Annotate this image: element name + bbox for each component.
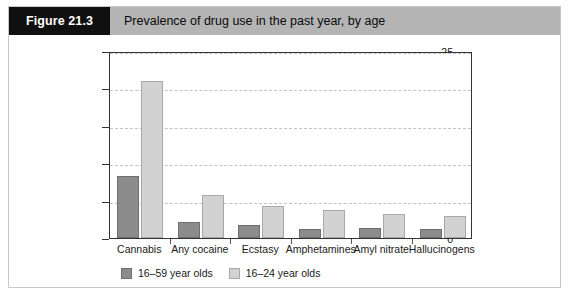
figure-container: Figure 21.3 Prevalence of drug use in th… (8, 6, 561, 288)
bar (141, 81, 163, 238)
plot-area (109, 52, 472, 239)
bar (202, 195, 224, 238)
chart-area: 0510152025 CannabisAny cocaineEcstasyAmp… (9, 35, 560, 287)
bar (359, 228, 381, 238)
bar (238, 225, 260, 238)
y-axis-tick-mark (102, 52, 109, 53)
legend-label: 16–59 year olds (138, 267, 213, 279)
legend-item: 16–24 year olds (229, 267, 321, 279)
y-axis-tick-mark (102, 239, 109, 240)
legend-item: 16–59 year olds (121, 267, 213, 279)
bar (178, 222, 200, 238)
x-axis-category-label: Cannabis (117, 243, 161, 255)
bar (117, 176, 139, 238)
bar (383, 214, 405, 238)
x-axis-category-label: Amphetamines (286, 243, 356, 255)
chart-legend: 16–59 year olds16–24 year olds (121, 267, 320, 279)
y-axis-tick-mark (102, 202, 109, 203)
x-axis-tick-mark (230, 239, 231, 244)
x-axis-category-label: Hallucinogens (409, 243, 475, 255)
legend-swatch (229, 268, 240, 279)
figure-header: Figure 21.3 Prevalence of drug use in th… (9, 7, 560, 35)
legend-label: 16–24 year olds (246, 267, 321, 279)
figure-title: Prevalence of drug use in the past year,… (110, 7, 385, 35)
bar (299, 229, 321, 238)
bar (444, 216, 466, 238)
x-axis-category-label: Amyl nitrate (354, 243, 409, 255)
bars-layer (110, 53, 471, 238)
x-axis-category-label: Any cocaine (171, 243, 228, 255)
bar (420, 229, 442, 238)
bar (323, 210, 345, 238)
y-axis-tick-mark (102, 164, 109, 165)
x-axis-category-label: Ecstasy (242, 243, 279, 255)
y-axis-tick-mark (102, 127, 109, 128)
figure-number-label: Figure 21.3 (26, 14, 93, 28)
legend-swatch (121, 268, 132, 279)
y-axis-tick-mark (102, 89, 109, 90)
bar (262, 206, 284, 238)
figure-number-box: Figure 21.3 (9, 7, 110, 35)
